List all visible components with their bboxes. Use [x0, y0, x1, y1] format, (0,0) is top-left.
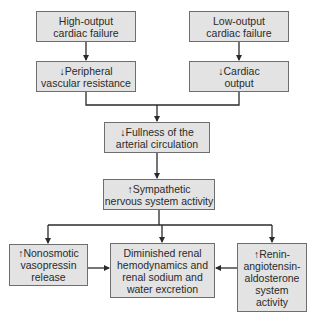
node-text-line: cardiac failure [53, 27, 118, 39]
node-text-line: angiotensin- [243, 260, 300, 272]
merge-line-top [86, 92, 239, 105]
node-text-line: Low-output [206, 15, 271, 27]
node-text-line: vasopressin [18, 259, 79, 271]
node-text-line: system [243, 284, 300, 296]
node-high-output-cardiac-failure: High-output cardiac failure [36, 11, 136, 42]
node-peripheral-vascular-resistance: ↓Peripheral vascular resistance [36, 61, 136, 92]
node-text-line: ↓Cardiac [218, 65, 259, 77]
node-text-line: hemodynamics and [117, 259, 208, 271]
node-text-line: ↑Sympathetic [105, 183, 214, 195]
node-text-line: nervous system activity [105, 195, 214, 207]
node-text-line: Diminished renal [117, 247, 208, 259]
node-text-line: renal sodium and [117, 271, 208, 283]
node-text-line: High-output [53, 15, 118, 27]
node-text-line: output [218, 77, 259, 89]
node-nonosmotic-vasopressin-release: ↑Nonosmotic vasopressin release [9, 244, 88, 286]
node-text-line: water excretion [117, 283, 208, 295]
node-text-line: vascular resistance [41, 77, 131, 89]
node-text-line: ↓Peripheral [41, 65, 131, 77]
node-sympathetic-nervous-system: ↑Sympathetic nervous system activity [103, 179, 215, 210]
node-text-line: ↓Fullness of the [116, 126, 198, 138]
node-low-output-cardiac-failure: Low-output cardiac failure [189, 11, 289, 42]
node-diminished-renal-hemodynamics: Diminished renal hemodynamics and renal … [110, 243, 215, 298]
node-fullness-arterial-circulation: ↓Fullness of the arterial circulation [104, 122, 210, 153]
node-text-line: aldosterone [243, 272, 300, 284]
node-text-line: arterial circulation [116, 138, 198, 150]
node-renin-angiotensin-aldosterone: ↑Renin- angiotensin- aldosterone system … [237, 243, 307, 312]
node-text-line: release [18, 271, 79, 283]
node-cardiac-output: ↓Cardiac output [189, 61, 289, 92]
node-text-line: cardiac failure [206, 27, 271, 39]
node-text-line: ↑Renin- [243, 248, 300, 260]
node-text-line: activity [243, 296, 300, 308]
node-text-line: ↑Nonosmotic [18, 247, 79, 259]
